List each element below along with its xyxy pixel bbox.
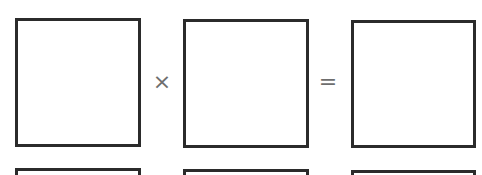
answer-box-row2-2[interactable] — [183, 169, 309, 175]
answer-box-multiplicand[interactable] — [15, 18, 141, 147]
equals-operator: = — [316, 71, 340, 93]
times-operator: × — [150, 71, 174, 93]
answer-box-product[interactable] — [351, 20, 476, 148]
answer-box-multiplier[interactable] — [183, 19, 309, 148]
answer-box-row2-1[interactable] — [15, 168, 141, 175]
answer-box-row2-3[interactable] — [351, 170, 476, 175]
